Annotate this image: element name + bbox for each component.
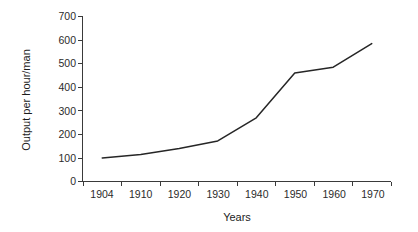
chart-canvas: Output per hour/man 700 600 500 400 300 … — [0, 0, 418, 232]
x-tick-label-1910: 1910 — [129, 188, 153, 200]
y-tick-label-200: 200 — [58, 128, 76, 140]
y-tick-label-300: 300 — [58, 105, 76, 117]
x-tick-label-1940: 1940 — [245, 188, 269, 200]
x-axis-title: Years — [223, 211, 251, 223]
line-chart-figure: Output per hour/man 700 600 500 400 300 … — [0, 0, 418, 232]
y-tick-label-700: 700 — [58, 10, 76, 22]
y-tick-label-600: 600 — [58, 34, 76, 46]
y-tick-label-0: 0 — [70, 175, 76, 187]
x-tick-label-1904: 1904 — [90, 188, 114, 200]
x-tick-label-1930: 1930 — [206, 188, 230, 200]
y-tick-label-400: 400 — [58, 81, 76, 93]
x-tick-label-1920: 1920 — [168, 188, 192, 200]
x-tick-label-1970: 1970 — [361, 188, 385, 200]
x-tick-label-1950: 1950 — [284, 188, 308, 200]
y-tick-label-100: 100 — [58, 152, 76, 164]
y-tick-label-500: 500 — [58, 57, 76, 69]
y-axis-title: Output per hour/man — [20, 49, 32, 151]
data-series-line — [102, 44, 372, 158]
x-tick-label-1960: 1960 — [323, 188, 347, 200]
